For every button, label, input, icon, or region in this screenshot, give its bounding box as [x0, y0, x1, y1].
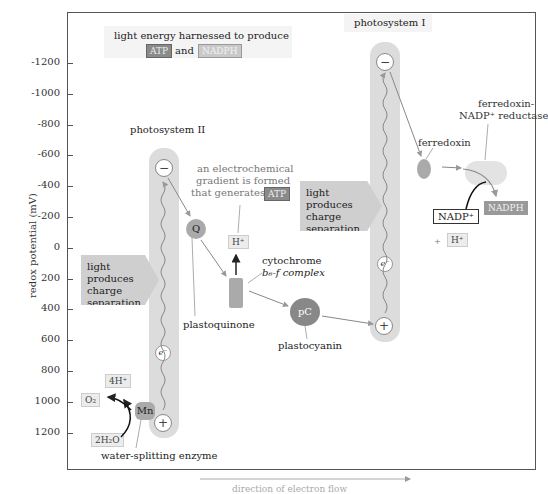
ps1-excitation-wave: [383, 73, 387, 313]
ps2-excitation-wave: [161, 182, 165, 410]
